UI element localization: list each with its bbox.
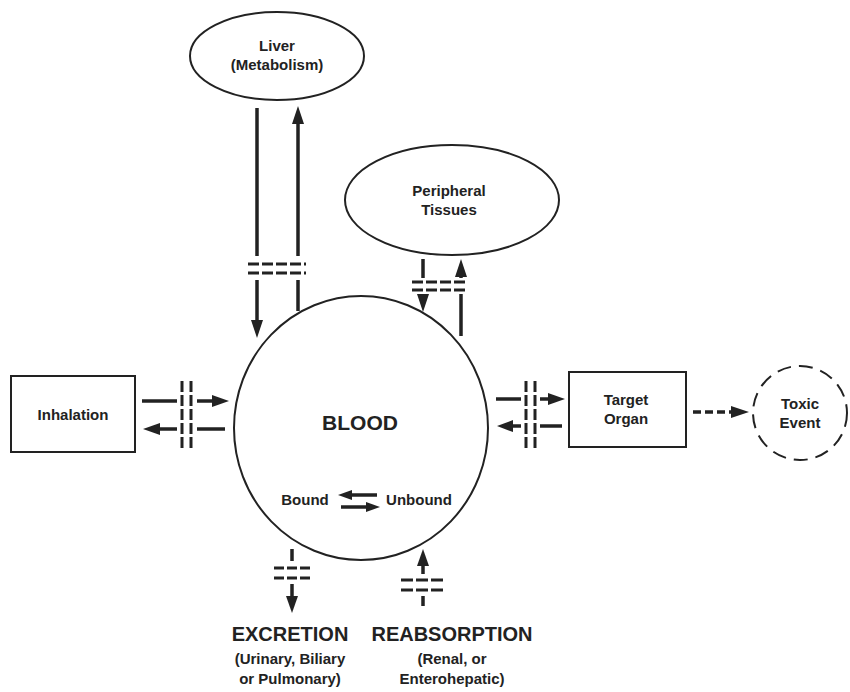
arrow-up-icon: [292, 106, 304, 124]
toxic-event-circle: [753, 366, 847, 460]
arrow-down-icon: [286, 596, 298, 613]
target-to-toxic-edge: [693, 406, 749, 418]
reabsorption-node: REABSORPTION (Renal, or Enterohepatic): [371, 623, 532, 687]
inhalation-label: Inhalation: [38, 406, 109, 423]
excretion-title: EXCRETION: [232, 623, 349, 645]
liver-label: Liver: [259, 37, 295, 54]
unbound-label: Unbound: [386, 491, 452, 508]
excretion-edge: [274, 549, 311, 613]
reabsorption-detail-2: Enterohepatic): [399, 670, 504, 687]
arrow-down-icon: [251, 320, 263, 338]
liver-node: Liver (Metabolism): [190, 12, 364, 100]
inhalation-blood-exchange: [142, 381, 229, 450]
arrow-left-icon: [497, 420, 513, 432]
arrow-right-icon: [731, 406, 749, 418]
reabsorption-detail-1: (Renal, or: [417, 650, 486, 667]
arrow-right-icon: [548, 393, 565, 405]
arrow-up-icon: [455, 259, 467, 277]
arrow-up-icon: [417, 549, 429, 566]
target-blood-exchange: [496, 381, 565, 450]
peripheral-label: Peripheral: [412, 182, 485, 199]
bound-label: Bound: [281, 491, 328, 508]
toxic-event-node: Toxic Event: [753, 366, 847, 460]
reabsorption-edge: [401, 549, 445, 606]
peripheral-sublabel: Tissues: [421, 201, 477, 218]
liver-blood-exchange: [248, 106, 306, 338]
inhalation-node: Inhalation: [11, 376, 135, 452]
excretion-detail-2: or Pulmonary): [239, 670, 341, 687]
toxic-sublabel: Event: [780, 414, 821, 431]
arrow-right-icon: [212, 395, 229, 407]
target-organ-node: Target Organ: [569, 372, 686, 447]
target-sublabel: Organ: [604, 410, 648, 427]
peripheral-tissues-node: Peripheral Tissues: [345, 145, 559, 255]
excretion-detail-1: (Urinary, Biliary: [235, 650, 346, 667]
arrow-left-icon: [338, 490, 352, 500]
arrow-right-icon: [366, 502, 380, 512]
liver-sublabel: (Metabolism): [231, 56, 324, 73]
reabsorption-title: REABSORPTION: [371, 623, 532, 645]
target-label: Target: [604, 391, 649, 408]
peripheral-ellipse: [345, 145, 559, 255]
arrow-down-icon: [417, 294, 429, 312]
toxic-label: Toxic: [781, 395, 819, 412]
blood-label: BLOOD: [322, 411, 398, 434]
toxicokinetic-diagram: Liver (Metabolism) Peripheral Tissues BL…: [0, 0, 850, 692]
excretion-node: EXCRETION (Urinary, Biliary or Pulmonary…: [232, 623, 349, 687]
arrow-left-icon: [143, 423, 160, 435]
blood-node: BLOOD Bound Unbound: [234, 296, 488, 560]
